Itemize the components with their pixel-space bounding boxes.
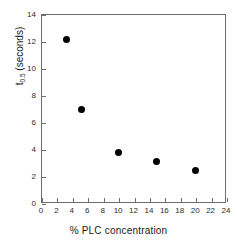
x-tick-label: 20: [191, 206, 200, 215]
y-axis-label-wrapper: t0.5 (seconds): [9, 0, 23, 126]
x-tick-label: 2: [54, 206, 58, 215]
x-tick: [150, 198, 151, 202]
x-tick: [73, 198, 74, 202]
y-tick-label: 14: [27, 10, 36, 19]
x-tick: [57, 198, 58, 202]
y-tick-label: 0: [32, 199, 36, 208]
x-tick: [42, 198, 43, 202]
y-tick-label: 2: [32, 172, 36, 181]
x-tick-label: 22: [206, 206, 215, 215]
y-tick: [42, 42, 46, 43]
y-tick-label: 12: [27, 37, 36, 46]
x-tick: [165, 198, 166, 202]
x-tick-label: 8: [100, 206, 104, 215]
y-tick-label: 6: [32, 118, 36, 127]
x-tick-label: 14: [144, 206, 153, 215]
x-tick-label: 16: [160, 206, 169, 215]
y-tick-label: 8: [32, 91, 36, 100]
x-tick: [227, 198, 228, 202]
data-point: [192, 167, 199, 174]
y-tick: [42, 204, 46, 205]
x-tick: [196, 198, 197, 202]
scatter-chart-figure: 02468101214161820222402468101214 % PLC c…: [0, 0, 237, 245]
x-tick-label: 24: [222, 206, 231, 215]
y-tick: [42, 69, 46, 70]
x-axis-label: % PLC concentration: [0, 225, 237, 236]
y-tick: [42, 150, 46, 151]
x-tick: [104, 198, 105, 202]
x-tick-label: 0: [39, 206, 43, 215]
x-tick-label: 12: [129, 206, 138, 215]
x-tick: [181, 198, 182, 202]
y-axis-label-main: t: [14, 82, 25, 85]
y-tick: [42, 96, 46, 97]
x-tick-label: 6: [85, 206, 89, 215]
x-tick-label: 4: [70, 206, 74, 215]
x-tick: [135, 198, 136, 202]
x-tick: [88, 198, 89, 202]
plot-area: [41, 14, 226, 203]
y-tick-label: 4: [32, 145, 36, 154]
x-tick: [119, 198, 120, 202]
y-tick: [42, 123, 46, 124]
x-tick: [212, 198, 213, 202]
y-tick-label: 10: [27, 64, 36, 73]
x-tick-label: 18: [175, 206, 184, 215]
y-tick: [42, 177, 46, 178]
y-axis-label-subscript: 0.5: [19, 73, 26, 82]
y-axis-label-units: (seconds): [14, 27, 25, 74]
y-tick: [42, 15, 46, 16]
x-tick-label: 10: [114, 206, 123, 215]
y-axis-label: t0.5 (seconds): [14, 27, 25, 86]
